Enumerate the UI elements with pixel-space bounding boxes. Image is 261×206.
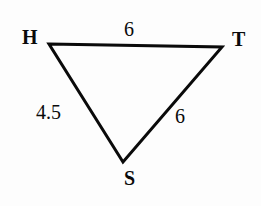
triangle-diagram-canvas: H T S 6 4.5 6 [0,0,261,206]
vertex-label-t: T [232,29,245,49]
side-length-label-ht: 6 [124,19,134,39]
vertex-label-h: H [22,27,38,47]
triangle-shape [49,44,222,162]
vertex-label-s: S [124,168,135,188]
side-length-label-hs: 4.5 [36,102,61,122]
side-length-label-st: 6 [175,106,185,126]
